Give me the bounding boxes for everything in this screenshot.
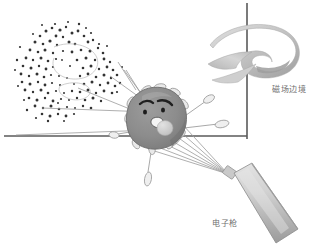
flagellum-right-lower [184, 119, 230, 129]
diagram-svg [0, 0, 320, 252]
diagram-canvas [0, 0, 320, 252]
ribbon-upper-curve [210, 24, 299, 78]
label-magnetic-field-boundary: 磁场边境 [272, 83, 306, 94]
flagellum-left [109, 131, 130, 139]
beam-line-gun-5 [155, 146, 228, 174]
cell-microbe [124, 83, 190, 155]
magnetic-field-ribbon [208, 24, 299, 83]
trajectory-lines [16, 62, 228, 174]
vacuole [157, 121, 173, 136]
particle-cloud-inner-ring [53, 44, 98, 100]
label-electron-gun: 电子枪 [212, 217, 238, 228]
electron-gun [222, 163, 298, 243]
eye-right [161, 107, 165, 112]
eye-left [143, 109, 147, 114]
scatter-line-7 [118, 62, 136, 90]
particle-cloud [14, 21, 123, 122]
electron-gun-body-highlight [237, 168, 289, 234]
